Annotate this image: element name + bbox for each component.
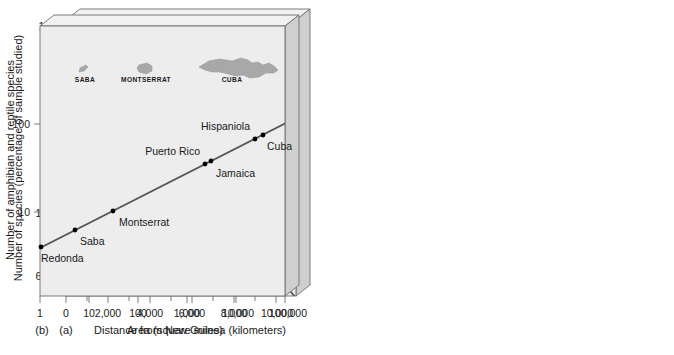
point-hispaniola xyxy=(253,137,258,142)
montserrat-inset-shape xyxy=(137,63,152,74)
label-cuba: Cuba xyxy=(267,140,292,152)
label-jamaica: Jamaica xyxy=(216,167,255,179)
x-tick-label: 100,000 xyxy=(269,307,307,319)
x-tick-label: 10,000 xyxy=(222,307,254,319)
point-cuba xyxy=(261,133,266,138)
panel-b-svg: SABA MONTSERRAT CUBA Redonda Saba xyxy=(0,0,334,355)
panel-b-letter: (b) xyxy=(35,324,48,336)
panel-b-right-bevel xyxy=(285,15,299,296)
point-jamaica xyxy=(209,159,214,164)
x-tick-label: 100 xyxy=(129,307,147,319)
x-tick-label: 1 xyxy=(37,307,43,319)
x-tick-label: 1,000 xyxy=(174,307,200,319)
panel-b-x-ticks xyxy=(40,296,285,303)
point-saba xyxy=(73,228,78,233)
figure-container: NEW GUINEA 100 50 25 12.5 6.25 xyxy=(0,0,674,355)
y-tick-label: 10 xyxy=(18,206,30,218)
panel-b-top-bevel xyxy=(40,15,299,26)
label-hispaniola: Hispaniola xyxy=(201,120,250,132)
point-redonda xyxy=(39,245,44,250)
point-puerto-rico xyxy=(203,162,208,167)
label-montserrat: Montserrat xyxy=(119,216,169,228)
panel-b-y-ticks xyxy=(34,124,40,212)
x-tick-label: 10 xyxy=(83,307,95,319)
cuba-inset-label: CUBA xyxy=(222,76,243,83)
point-montserrat xyxy=(111,209,116,214)
saba-inset-label: SABA xyxy=(75,76,95,83)
label-redonda: Redonda xyxy=(41,252,84,264)
panel-b-x-axis-title: Area (square miles) xyxy=(127,324,223,336)
panel-b-y-axis-title: Number of amphibian and reptile species xyxy=(4,60,16,260)
panel-b-x-tick-labels: 1 10 100 1,000 10,000 100,000 xyxy=(37,307,307,319)
label-saba: Saba xyxy=(80,235,105,247)
montserrat-inset-label: MONTSERRAT xyxy=(121,76,171,83)
label-puerto-rico: Puerto Rico xyxy=(145,145,200,157)
